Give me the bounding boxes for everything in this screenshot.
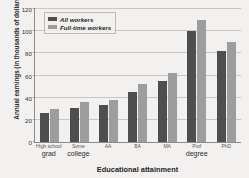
bar-group bbox=[153, 9, 182, 142]
bar bbox=[109, 100, 118, 142]
legend-swatch-icon bbox=[48, 25, 57, 30]
x-axis-title: Educational attainment bbox=[34, 165, 241, 174]
bar bbox=[40, 113, 49, 142]
legend-item-all-workers: All workers bbox=[48, 15, 111, 23]
y-axis-tick-label: 100 bbox=[22, 28, 32, 35]
y-axis-tick-label: 60 bbox=[25, 72, 32, 79]
bar bbox=[70, 108, 79, 142]
chart-figure: Annual earnings (in thousands of dollars… bbox=[0, 0, 249, 178]
y-axis-tick-label: 0 bbox=[29, 139, 32, 146]
bar bbox=[197, 20, 206, 142]
y-axis-title: Annual earnings (in thousands of dollars… bbox=[13, 0, 20, 128]
bar bbox=[138, 84, 147, 142]
bar-group bbox=[123, 9, 152, 142]
bar bbox=[128, 92, 137, 142]
bar bbox=[158, 81, 167, 142]
bar bbox=[50, 109, 59, 142]
y-axis-tick-label: 80 bbox=[25, 50, 32, 57]
y-axis-tick-label: 40 bbox=[25, 94, 32, 101]
y-axis-tick-label: 20 bbox=[25, 116, 32, 123]
legend-label: All workers bbox=[60, 16, 93, 23]
bar bbox=[217, 51, 226, 142]
legend-label: Full-time workers bbox=[60, 24, 111, 31]
bar bbox=[99, 105, 108, 142]
legend: All workers Full-time workers bbox=[44, 12, 116, 34]
bar bbox=[168, 73, 177, 142]
bar bbox=[187, 31, 196, 142]
bar-group bbox=[182, 9, 211, 142]
bar bbox=[227, 42, 236, 142]
legend-item-full-time-workers: Full-time workers bbox=[48, 23, 111, 31]
y-axis-tick-label: 120 bbox=[22, 6, 32, 13]
legend-swatch-icon bbox=[48, 17, 57, 22]
bar-group bbox=[212, 9, 241, 142]
bar bbox=[80, 102, 89, 142]
